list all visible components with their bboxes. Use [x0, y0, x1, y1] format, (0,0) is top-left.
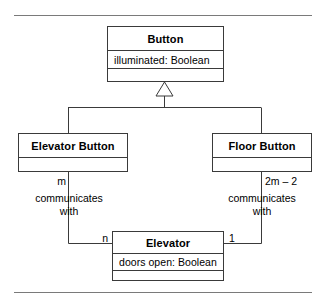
class-box-floor-button[interactable]: Floor Button — [212, 133, 312, 172]
multiplicity-floor-button-2m-2: 2m – 2 — [265, 175, 297, 187]
class-box-elevator-button[interactable]: Elevator Button — [18, 133, 128, 172]
inheritance-hollow-triangle — [156, 82, 173, 96]
association-label-line2: with — [207, 205, 317, 218]
multiplicity-elevator-button-m: m — [55, 175, 66, 187]
class-attribute-elevator-doors-open: doors open: Boolean — [113, 253, 223, 270]
class-operations-elevator-button — [19, 157, 127, 171]
multiplicity-elevator-1: 1 — [229, 232, 235, 244]
class-name-elevator: Elevator — [113, 232, 223, 253]
class-name-button: Button — [108, 27, 223, 50]
class-operations-floor-button — [213, 157, 311, 171]
association-label-line1: communicates — [207, 192, 317, 205]
association-label-floor-button: communicates with — [207, 192, 317, 217]
generalization-connector — [68, 82, 262, 133]
class-operations-elevator — [113, 270, 223, 280]
class-box-elevator[interactable]: Elevator doors open: Boolean — [112, 231, 224, 281]
association-label-line1: communicates — [14, 192, 124, 205]
class-operations-button — [108, 68, 223, 81]
class-name-floor-button: Floor Button — [213, 134, 311, 157]
uml-class-diagram: Button illuminated: Boolean Elevator But… — [0, 0, 329, 307]
association-label-line2: with — [14, 205, 124, 218]
association-label-elevator-button: communicates with — [14, 192, 124, 217]
class-name-elevator-button: Elevator Button — [19, 134, 127, 157]
class-attribute-button-illuminated: illuminated: Boolean — [108, 50, 223, 68]
class-box-button[interactable]: Button illuminated: Boolean — [107, 26, 224, 82]
multiplicity-elevator-n: n — [97, 232, 108, 244]
